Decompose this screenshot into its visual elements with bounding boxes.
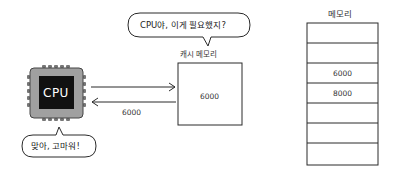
speech-top-text: CPU야, 이게 필요했지? — [140, 21, 226, 30]
memory-cell — [307, 23, 378, 43]
memory-cell — [307, 103, 378, 123]
response-arrow-label: 6000 — [122, 109, 141, 117]
cache-memory-label: 캐시 메모리 — [180, 51, 217, 59]
memory-cell — [307, 143, 378, 163]
response-arrow — [92, 98, 176, 106]
memory-cell — [307, 43, 378, 63]
request-arrow — [91, 83, 175, 91]
speech-bottom-text: 맞아, 고마워! — [31, 142, 80, 151]
cpu-label: CPU — [43, 87, 69, 99]
memory-cell: 8000 — [307, 83, 378, 103]
memory-cell: 6000 — [307, 63, 378, 83]
memory-label: 메모리 — [328, 10, 352, 19]
cache-value: 6000 — [200, 93, 219, 101]
memory-cell — [307, 123, 378, 143]
